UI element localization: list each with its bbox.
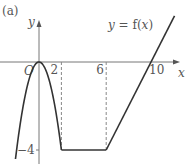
x-axis-arrow-icon <box>173 60 180 65</box>
x-tick-label: 2 <box>50 63 58 77</box>
x-tick-label: 10 <box>149 63 164 77</box>
function-label: y = f(x) <box>107 18 153 32</box>
panel-label: (a) <box>2 4 19 18</box>
curve-rising-line <box>106 16 174 150</box>
y-axis-arrow-icon <box>37 20 42 27</box>
x-axis-label: x <box>178 66 185 80</box>
y-axis-label: y <box>27 15 35 29</box>
y-tick-label: −4 <box>17 143 35 157</box>
x-tick-label: 6 <box>96 63 104 77</box>
function-graph: (a) x y O 2 6 10 −4 y = f(x) <box>0 0 188 167</box>
